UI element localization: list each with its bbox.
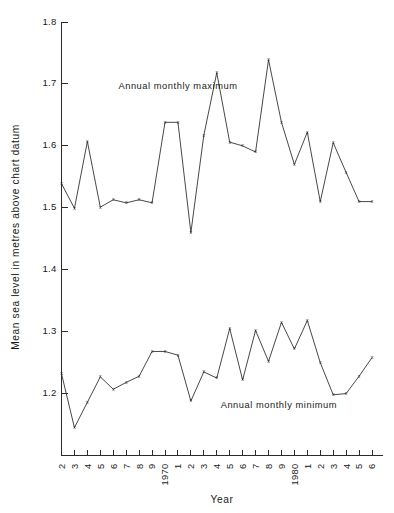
data-point-marker: x bbox=[138, 373, 141, 379]
data-point-marker: x bbox=[280, 319, 283, 325]
data-point-marker: x bbox=[125, 379, 128, 385]
data-point-marker: x bbox=[267, 358, 270, 364]
data-point-marker: x bbox=[267, 56, 270, 62]
y-axis-title: Mean sea level in metres above chart dat… bbox=[10, 124, 21, 350]
data-point-marker: x bbox=[293, 345, 296, 351]
data-point-marker: x bbox=[293, 161, 296, 167]
data-point-marker: x bbox=[254, 327, 257, 333]
data-point-marker: x bbox=[112, 196, 115, 202]
data-point-marker: x bbox=[254, 148, 257, 154]
data-point-marker: x bbox=[215, 374, 218, 380]
data-point-marker: x bbox=[177, 352, 180, 358]
data-point-marker: x bbox=[190, 397, 193, 403]
data-point-marker: x bbox=[215, 69, 218, 75]
x-tick-label: 3 bbox=[329, 464, 339, 469]
y-tick-label: 1.2 bbox=[43, 387, 57, 398]
min-series-markers: xxxxxxxxxxxxxxxxxxxxxxxxx bbox=[60, 317, 374, 430]
data-point-marker: x bbox=[138, 196, 141, 202]
min-series-annotation: Annual monthly minimum bbox=[221, 400, 337, 410]
data-point-marker: x bbox=[112, 386, 115, 392]
data-point-marker: x bbox=[371, 354, 374, 360]
data-point-marker: x bbox=[99, 204, 102, 210]
data-point-marker: x bbox=[99, 373, 102, 379]
x-tick-label: 8 bbox=[264, 464, 274, 469]
x-tick-label: 4 bbox=[83, 464, 93, 469]
y-axis-ticks: 1.21.31.41.51.61.71.8 bbox=[43, 16, 68, 399]
data-point-marker: x bbox=[164, 348, 167, 354]
x-tick-label: 3 bbox=[70, 464, 80, 469]
x-tick-label: 7 bbox=[251, 464, 261, 469]
x-tick-label: 4 bbox=[212, 464, 222, 469]
x-tick-label: 5 bbox=[225, 464, 235, 469]
x-tick-label: 9 bbox=[147, 464, 157, 469]
x-tick-label: 4 bbox=[342, 464, 352, 469]
data-point-marker: x bbox=[319, 198, 322, 204]
data-point-marker: x bbox=[280, 119, 283, 125]
x-axis-ticks: 2345678919701234567891980123456 bbox=[57, 450, 378, 486]
data-point-marker: x bbox=[306, 317, 309, 323]
data-point-marker: x bbox=[86, 399, 89, 405]
x-tick-label: 2 bbox=[57, 464, 67, 469]
data-point-marker: x bbox=[332, 139, 335, 145]
y-tick-label: 1.6 bbox=[43, 139, 57, 150]
data-point-marker: x bbox=[190, 229, 193, 235]
y-tick-label: 1.5 bbox=[43, 201, 57, 212]
x-tick-label: 6 bbox=[238, 464, 248, 469]
x-tick-label: 5 bbox=[96, 464, 106, 469]
data-point-marker: x bbox=[371, 198, 374, 204]
x-axis-title: Year bbox=[211, 494, 234, 505]
data-point-marker: x bbox=[125, 199, 128, 205]
data-point-marker: x bbox=[73, 205, 76, 211]
data-point-marker: x bbox=[60, 180, 63, 186]
x-tick-label: 2 bbox=[186, 464, 196, 469]
x-tick-label: 1 bbox=[173, 464, 183, 469]
data-point-marker: x bbox=[151, 348, 154, 354]
x-tick-label: 6 bbox=[367, 464, 377, 469]
data-point-marker: x bbox=[60, 370, 63, 376]
series-annual-monthly-minimum: xxxxxxxxxxxxxxxxxxxxxxxxx bbox=[60, 317, 374, 430]
data-point-marker: x bbox=[203, 368, 206, 374]
data-point-marker: x bbox=[358, 198, 361, 204]
data-point-marker: x bbox=[241, 376, 244, 382]
data-point-marker: x bbox=[86, 138, 89, 144]
x-tick-label: 2 bbox=[316, 464, 326, 469]
y-tick-label: 1.3 bbox=[43, 325, 57, 336]
data-point-marker: x bbox=[164, 119, 167, 125]
y-tick-label: 1.7 bbox=[43, 77, 57, 88]
x-tick-label: 1970 bbox=[160, 464, 170, 486]
x-tick-label: 7 bbox=[122, 464, 132, 469]
data-point-marker: x bbox=[306, 129, 309, 135]
data-point-marker: x bbox=[345, 390, 348, 396]
y-tick-label: 1.8 bbox=[43, 16, 57, 27]
max-series-annotation: Annual monthly maximum bbox=[118, 81, 237, 91]
data-point-marker: x bbox=[151, 199, 154, 205]
data-point-marker: x bbox=[332, 391, 335, 397]
y-tick-label: 1.4 bbox=[43, 263, 57, 274]
data-point-marker: x bbox=[319, 359, 322, 365]
x-tick-label: 9 bbox=[277, 464, 287, 469]
data-point-marker: x bbox=[177, 119, 180, 125]
x-tick-label: 1 bbox=[303, 464, 313, 469]
x-tick-label: 3 bbox=[199, 464, 209, 469]
data-point-marker: x bbox=[228, 325, 231, 331]
data-point-marker: x bbox=[241, 142, 244, 148]
data-point-marker: x bbox=[358, 373, 361, 379]
data-point-marker: x bbox=[73, 424, 76, 430]
x-tick-label: 5 bbox=[354, 464, 364, 469]
x-tick-label: 1980 bbox=[290, 464, 300, 486]
data-point-marker: x bbox=[345, 169, 348, 175]
x-tick-label: 8 bbox=[135, 464, 145, 469]
x-tick-label: 6 bbox=[109, 464, 119, 469]
sea-level-line-chart: Mean sea level in metres above chart dat… bbox=[0, 0, 394, 513]
data-point-marker: x bbox=[203, 132, 206, 138]
chart-figure: Mean sea level in metres above chart dat… bbox=[0, 0, 394, 513]
data-point-marker: x bbox=[228, 139, 231, 145]
